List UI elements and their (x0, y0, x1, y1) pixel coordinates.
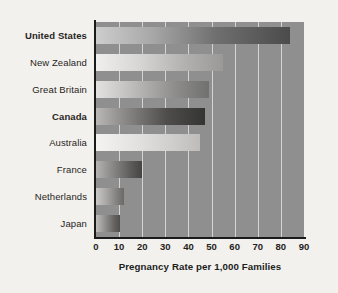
bar-netherlands (96, 188, 124, 205)
bar-great-britain (96, 81, 209, 98)
x-tick-label-50: 50 (206, 241, 217, 252)
bar-row (96, 49, 304, 76)
category-label-great-britain: Great Britain (6, 76, 92, 103)
x-axis-line (94, 237, 306, 239)
category-label-france: France (6, 156, 92, 183)
bar-japan (96, 215, 120, 232)
bar-row (96, 156, 304, 183)
bar-row (96, 130, 304, 157)
x-axis-tick-labels: 0102030405060708090 (96, 241, 304, 255)
y-axis-line (94, 20, 96, 239)
x-axis-title: Pregnancy Rate per 1,000 Families (72, 261, 328, 272)
bar-canada (96, 108, 205, 125)
bar-row (96, 210, 304, 237)
category-label-united-states: United States (6, 22, 92, 49)
plot-wrapper (96, 22, 304, 237)
chart-figure: United States New Zealand Great Britain … (0, 0, 338, 293)
bar-new-zealand (96, 54, 223, 71)
x-tick-label-30: 30 (160, 241, 171, 252)
x-tick-label-90: 90 (299, 241, 310, 252)
bar-row (96, 183, 304, 210)
bar-series (96, 22, 304, 237)
bar-row (96, 76, 304, 103)
plot-area (96, 22, 304, 237)
bar-australia (96, 134, 200, 151)
bar-united-states (96, 27, 290, 44)
x-tick-label-10: 10 (114, 241, 125, 252)
bar-row (96, 22, 304, 49)
x-tick-label-40: 40 (183, 241, 194, 252)
x-tick-label-0: 0 (93, 241, 98, 252)
category-label-australia: Australia (6, 130, 92, 157)
x-tick-label-70: 70 (252, 241, 263, 252)
category-label-netherlands: Netherlands (6, 183, 92, 210)
x-tick-label-60: 60 (229, 241, 240, 252)
x-tick-label-80: 80 (276, 241, 287, 252)
x-tick-label-20: 20 (137, 241, 148, 252)
category-label-column: United States New Zealand Great Britain … (6, 22, 92, 237)
category-label-new-zealand: New Zealand (6, 49, 92, 76)
bar-france (96, 161, 142, 178)
category-label-canada: Canada (6, 103, 92, 130)
category-label-japan: Japan (6, 210, 92, 237)
bar-row (96, 103, 304, 130)
